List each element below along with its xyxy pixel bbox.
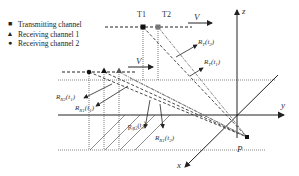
velocity-label-middle: V (136, 56, 143, 66)
receiver1-marker-t2 (116, 68, 122, 74)
circle-icon: ● (6, 39, 14, 49)
y-axis-label: y (280, 100, 285, 110)
range-lines (89, 27, 247, 137)
x-axis-label: x (176, 160, 181, 170)
legend: ■ Transmitting channel ▲ Receiving chann… (6, 20, 82, 49)
range-label-rt-t1: RT(t1) (203, 58, 221, 67)
target-p-label: P (236, 144, 243, 154)
t1-label: T1 (137, 10, 146, 19)
receiver1-marker (101, 68, 107, 74)
receiver2-marker (87, 70, 92, 75)
x-axis (185, 75, 278, 167)
range-label-rt-t2: RT(t2) (197, 38, 215, 47)
transmitter-t2-marker (156, 25, 161, 30)
triangle-icon: ▲ (6, 30, 14, 40)
range-label-rr2-t1: RR2(t1) (55, 93, 76, 102)
range-label-rr2-t2: RR2(t2) (126, 120, 148, 133)
projection-hatching (90, 115, 170, 150)
velocity-label-top: V (194, 12, 201, 22)
legend-label: Receiving channel 1 (18, 30, 79, 40)
legend-label: Receiving channel 2 (18, 39, 79, 49)
legend-item-transmitting: ■ Transmitting channel (6, 20, 82, 30)
z-axis-label: z (241, 6, 246, 16)
square-icon: ■ (6, 20, 14, 30)
transmitter-t1-marker (141, 25, 146, 30)
t2-label: T2 (162, 10, 171, 19)
target-p-marker (245, 135, 249, 139)
legend-label: Transmitting channel (18, 20, 82, 30)
range-label-rr1-t1: RR1(t1) (74, 104, 95, 113)
range-label-rr1-t2: RR1(t2) (154, 134, 175, 143)
legend-item-receiving-2: ● Receiving channel 2 (6, 39, 82, 49)
legend-item-receiving-1: ▲ Receiving channel 1 (6, 30, 82, 40)
